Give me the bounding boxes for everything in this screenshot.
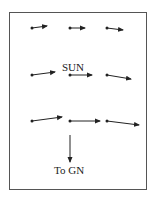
vector-arrow-icon [32, 72, 55, 75]
vector-origin-dot [106, 74, 109, 77]
vector-origin-dot [31, 27, 34, 30]
vector-arrow-icon [107, 75, 131, 79]
sun-label: SUN [62, 61, 84, 73]
vector-origin-dot [31, 74, 34, 77]
vector-origin-dot [69, 120, 72, 123]
vector-origin-dot [69, 27, 72, 30]
vector-arrow-icon [107, 121, 139, 125]
to-gn-label: To GN [54, 164, 84, 176]
vector-origin-dot [106, 27, 109, 30]
diagram-frame [10, 13, 147, 190]
vector-origin-dot [31, 120, 34, 123]
vector-origin-dot [106, 120, 109, 123]
vector-arrow-icon [32, 26, 47, 28]
vector-arrow-icon [32, 117, 62, 121]
vector-arrow-icon [107, 28, 123, 30]
vector-origin-dot [69, 74, 72, 77]
vector-arrows [31, 26, 140, 125]
